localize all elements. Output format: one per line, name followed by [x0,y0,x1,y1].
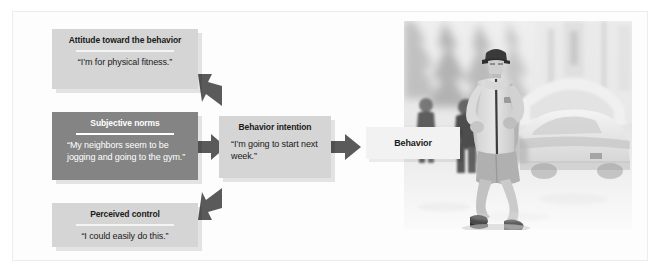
jogger-in-snow-photo [404,21,632,230]
box-attitude-divider [76,50,174,52]
box-norms-title: Subjective norms [59,118,191,129]
box-norms-quote: “My neighbors seem to be jogging and goi… [59,139,191,163]
arrow-intention-to-behavior-icon [329,134,361,160]
box-subjective-norms: Subjective norms “My neighbors seem to b… [52,112,198,180]
box-control-quote: “I could easily do this.” [59,230,191,242]
box-attitude-title: Attitude toward the behavior [59,35,191,46]
box-intention-quote: “I’m going to start next week.” [226,138,324,162]
box-attitude-toward-behavior: Attitude toward the behavior “I’m for ph… [52,29,198,89]
box-behavior-title: Behavior [394,138,432,148]
box-control-title: Perceived control [59,209,191,220]
theory-of-planned-behavior-figure: Attitude toward the behavior “I’m for ph… [0,0,661,273]
box-intention-title: Behavior intention [226,122,324,133]
box-attitude-quote: “I’m for physical fitness.” [59,56,191,68]
box-norms-divider [76,133,174,135]
box-behavior: Behavior [366,127,460,159]
box-behavior-intention: Behavior intention “I’m going to start n… [219,116,331,178]
box-perceived-control: Perceived control “I could easily do thi… [52,203,198,247]
arrow-attitude-to-intention-icon [196,72,226,108]
arrow-control-to-intention-icon [196,186,226,222]
box-control-divider [76,224,174,226]
